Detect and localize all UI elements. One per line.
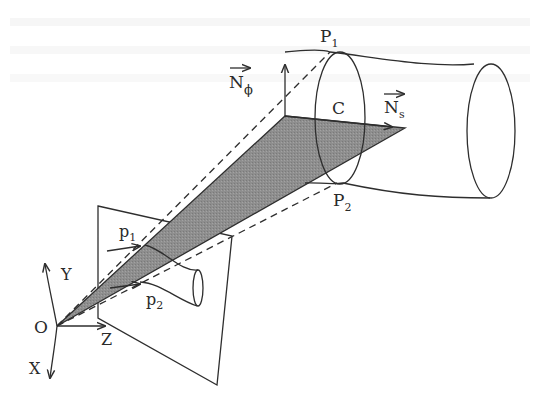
generalized-cylinder-projection-diagram: O X Y Z p1 p2 P1 P2 C Nϕ Ns: [0, 0, 540, 411]
label-axis-z: Z: [101, 330, 112, 349]
cylinder-end: [467, 64, 515, 198]
label-origin: O: [34, 317, 48, 337]
label-p1: p1: [119, 222, 136, 244]
label-p2: p2: [146, 290, 163, 312]
label-axis-x: X: [29, 359, 41, 378]
label-normal-phi: Nϕ: [229, 68, 253, 97]
label-normal-s: Ns: [384, 94, 405, 121]
label-cross-section: C: [332, 98, 345, 118]
svg-text:Ns: Ns: [384, 97, 405, 121]
label-P2: P2: [333, 190, 351, 214]
label-axis-y: Y: [60, 265, 72, 284]
coordinate-axes: [45, 264, 105, 378]
contour-plane-shading: [57, 116, 405, 326]
background-bleed-text: [10, 18, 530, 82]
